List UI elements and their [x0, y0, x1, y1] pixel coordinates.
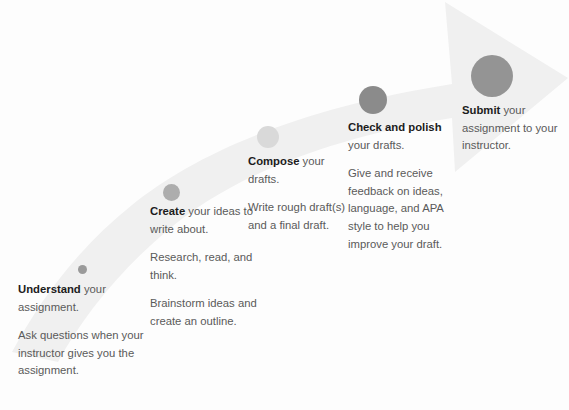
step-compose-heading-line: Compose your drafts.: [248, 153, 348, 188]
step-understand-body: Ask questions when your instructor gives…: [18, 327, 152, 380]
step-check-and-polish-heading: Check and polish: [348, 121, 442, 133]
step-compose-text: Compose your drafts. Write rough draft(s…: [248, 153, 348, 234]
step-create-heading-line: Create your ideas to write about.: [150, 203, 263, 238]
step-submit-heading-line: Submit your assignment to your instructo…: [462, 102, 566, 155]
step-create-body: Research, read, and think.: [150, 249, 263, 284]
step-create-heading: Create: [150, 205, 185, 217]
step-compose-body: Write rough draft(s) and a final draft.: [248, 199, 348, 234]
step-check-and-polish-text: Check and polish your drafts. Give and r…: [348, 119, 466, 253]
step-compose-dot: [257, 126, 279, 148]
step-understand-dot: [78, 265, 87, 274]
step-submit-dot: [471, 55, 513, 97]
step-submit-text: Submit your assignment to your instructo…: [462, 102, 566, 155]
infographic-canvas: Understand your assignment. Ask question…: [0, 0, 569, 410]
step-check-and-polish-heading-tail: your drafts.: [348, 139, 405, 151]
step-submit-heading: Submit: [462, 104, 500, 116]
step-understand-text: Understand your assignment. Ask question…: [18, 281, 152, 380]
step-check-and-polish-body: Give and receive feedback on ideas, lang…: [348, 165, 466, 253]
step-understand-heading: Understand: [18, 283, 81, 295]
step-compose-heading: Compose: [248, 155, 299, 167]
step-create-body2: Brainstorm ideas and create an outline.: [150, 295, 263, 330]
step-check-and-polish-dot: [359, 86, 387, 114]
step-understand-heading-line: Understand your assignment.: [18, 281, 152, 316]
step-create-text: Create your ideas to write about. Resear…: [150, 203, 263, 331]
step-check-heading-line: Check and polish your drafts.: [348, 119, 466, 154]
step-create-dot: [163, 184, 180, 201]
